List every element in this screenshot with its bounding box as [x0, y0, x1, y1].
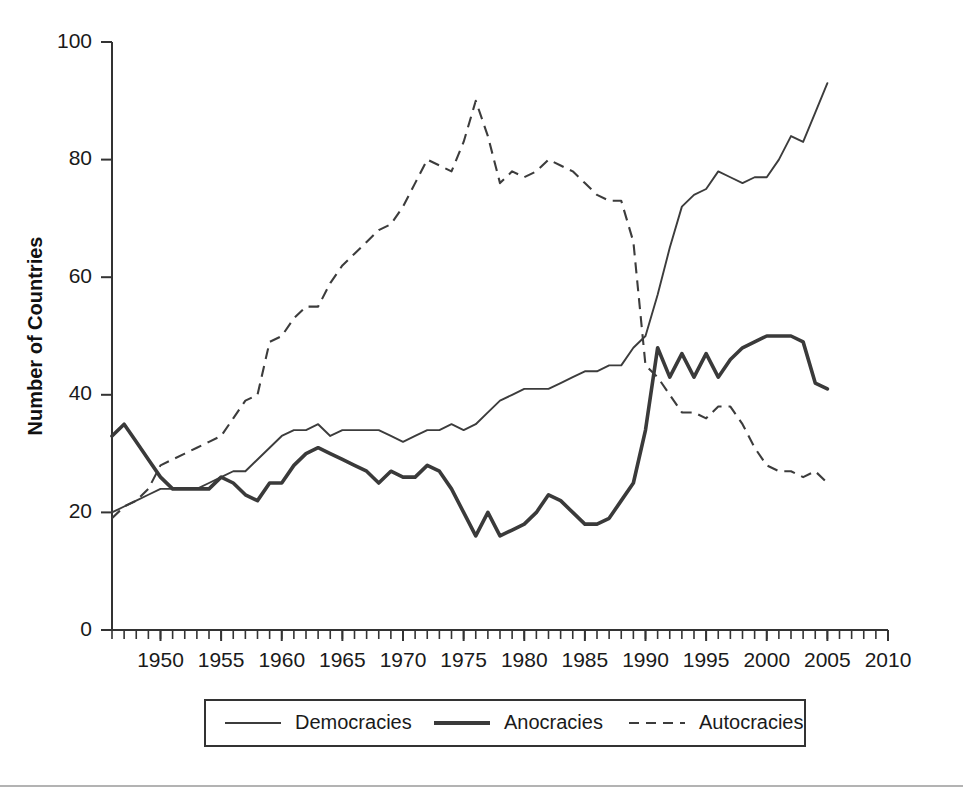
x-tick-label-1995: 1995: [683, 648, 730, 671]
x-tick-label-2000: 2000: [743, 648, 790, 671]
x-tick-label-1950: 1950: [137, 648, 184, 671]
y-tick-label-80: 80: [69, 146, 92, 169]
x-tick-label-1965: 1965: [319, 648, 366, 671]
y-tick-label-40: 40: [69, 381, 92, 404]
chart-background: [0, 0, 963, 796]
y-axis-title: Number of Countries: [24, 237, 46, 436]
x-tick-label-1960: 1960: [258, 648, 305, 671]
x-tick-label-1985: 1985: [562, 648, 609, 671]
line-chart: 020406080100 195019551960196519701975198…: [0, 0, 963, 796]
x-tick-label-2005: 2005: [804, 648, 851, 671]
chart-legend: Democracies Anocracies Autocracies: [205, 700, 805, 746]
x-tick-label-2010: 2010: [865, 648, 912, 671]
legend-label-autocracies: Autocracies: [699, 711, 804, 733]
chart-figure: 020406080100 195019551960196519701975198…: [0, 0, 963, 796]
y-tick-label-20: 20: [69, 499, 92, 522]
legend-label-anocracies: Anocracies: [504, 711, 603, 733]
y-tick-label-60: 60: [69, 264, 92, 287]
y-tick-label-100: 100: [57, 29, 92, 52]
x-tick-label-1970: 1970: [380, 648, 427, 671]
x-tick-label-1955: 1955: [198, 648, 245, 671]
x-tick-label-1975: 1975: [440, 648, 487, 671]
y-tick-label-0: 0: [80, 617, 92, 640]
x-tick-label-1990: 1990: [622, 648, 669, 671]
legend-label-democracies: Democracies: [295, 711, 412, 733]
x-tick-label-1980: 1980: [501, 648, 548, 671]
